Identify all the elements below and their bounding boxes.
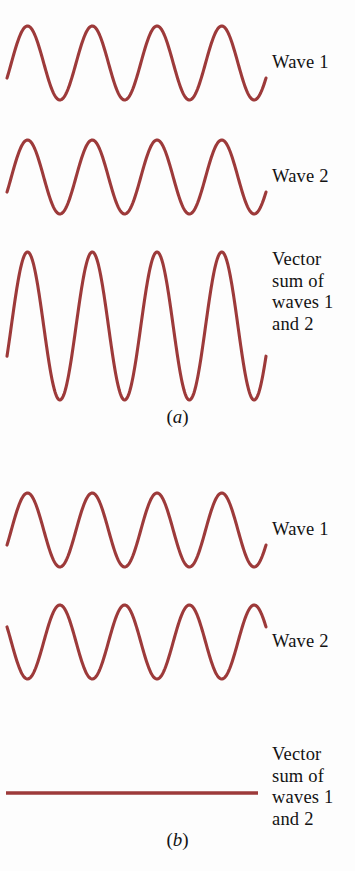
panel-b-caption: (b) <box>0 829 355 851</box>
wave-interference-figure: Wave 1 Wave 2 Vector sum of waves 1 and … <box>0 0 355 871</box>
label-panel-a-vector-sum: Vector sum of waves 1 and 2 <box>272 249 334 335</box>
panel-a-caption-letter: a <box>173 406 183 427</box>
wave-path-b-2 <box>7 605 266 679</box>
panel-a-wave-1-curve <box>0 0 355 871</box>
panel-a-caption: (a) <box>0 406 355 428</box>
panel-b-caption-close: ) <box>182 829 188 850</box>
label-panel-b-vector-sum: Vector sum of waves 1 and 2 <box>272 744 334 830</box>
label-panel-a-wave-1: Wave 1 <box>272 52 329 74</box>
wave-path-a-2 <box>7 140 266 214</box>
label-panel-b-wave-2: Wave 2 <box>272 631 329 653</box>
panel-b-caption-letter: b <box>173 829 183 850</box>
wave-path-a-sum <box>7 252 266 400</box>
panel-a-caption-close: ) <box>182 406 188 427</box>
label-panel-b-wave-1: Wave 1 <box>272 519 329 541</box>
wave-path-b-1 <box>7 493 266 567</box>
wave-path-a-1 <box>7 26 266 100</box>
label-panel-a-wave-2: Wave 2 <box>272 166 329 188</box>
